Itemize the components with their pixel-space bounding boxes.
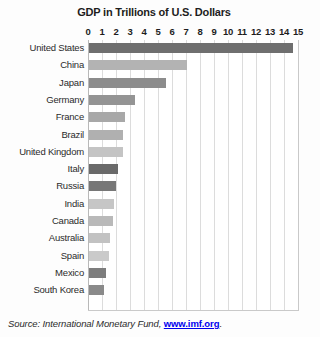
- bar-china[interactable]: [89, 60, 187, 70]
- bar-row: [88, 130, 298, 140]
- x-tick-label-13: 13: [265, 26, 275, 37]
- bar-united-kingdom[interactable]: [89, 147, 123, 157]
- bar-india[interactable]: [89, 199, 114, 209]
- bar-brazil[interactable]: [89, 130, 123, 140]
- x-tick-label-15: 15: [293, 26, 303, 37]
- bar-row: [88, 233, 298, 243]
- category-label-italy: Italy: [0, 163, 84, 174]
- x-tick-label-4: 4: [142, 26, 147, 37]
- x-tick-label-9: 9: [212, 26, 217, 37]
- x-tick-label-7: 7: [184, 26, 189, 37]
- bar-row: [88, 60, 298, 70]
- bar-russia[interactable]: [89, 181, 116, 191]
- bar-mexico[interactable]: [89, 268, 106, 278]
- source-note: Source: International Monetary Fund, www…: [8, 318, 222, 329]
- category-label-japan: Japan: [0, 77, 84, 88]
- category-label-canada: Canada: [0, 215, 84, 226]
- y-axis-category-labels: United StatesChinaJapanGermanyFranceBraz…: [0, 40, 84, 310]
- bar-row: [88, 251, 298, 261]
- source-period: .: [219, 318, 222, 329]
- bar-spain[interactable]: [89, 251, 109, 261]
- bar-united-states[interactable]: [89, 43, 293, 53]
- bar-japan[interactable]: [89, 78, 166, 88]
- category-label-australia: Australia: [0, 232, 84, 243]
- bar-row: [88, 285, 298, 295]
- x-tick-label-14: 14: [279, 26, 289, 37]
- bar-france[interactable]: [89, 112, 125, 122]
- category-label-france: France: [0, 111, 84, 122]
- x-tick-label-2: 2: [114, 26, 119, 37]
- x-tick-label-11: 11: [237, 26, 246, 37]
- source-prefix: Source: International Monetary Fund,: [8, 318, 164, 329]
- bar-australia[interactable]: [89, 233, 110, 243]
- x-tick-label-1: 1: [100, 26, 105, 37]
- bar-row: [88, 95, 298, 105]
- bar-row: [88, 181, 298, 191]
- category-label-brazil: Brazil: [0, 129, 84, 140]
- bar-row: [88, 112, 298, 122]
- x-tick-label-8: 8: [198, 26, 203, 37]
- source-url-link[interactable]: www.imf.org: [164, 318, 220, 329]
- bar-row: [88, 216, 298, 226]
- bar-germany[interactable]: [89, 95, 135, 105]
- gdp-bar-chart: GDP in Trillions of U.S. Dollars 0123456…: [0, 0, 320, 337]
- chart-title: GDP in Trillions of U.S. Dollars: [0, 6, 308, 18]
- x-tick-label-0: 0: [86, 26, 91, 37]
- category-label-russia: Russia: [0, 180, 84, 191]
- x-tick-label-5: 5: [156, 26, 161, 37]
- x-tick-label-10: 10: [223, 26, 233, 37]
- bar-row: [88, 268, 298, 278]
- x-tick-label-3: 3: [128, 26, 133, 37]
- bar-italy[interactable]: [89, 164, 118, 174]
- category-label-india: India: [0, 198, 84, 209]
- bar-canada[interactable]: [89, 216, 113, 226]
- x-tick-label-12: 12: [251, 26, 261, 37]
- bar-south-korea[interactable]: [89, 285, 104, 295]
- bar-row: [88, 199, 298, 209]
- category-label-mexico: Mexico: [0, 267, 84, 278]
- category-label-germany: Germany: [0, 94, 84, 105]
- x-axis-tick-labels: 0123456789101112131415: [88, 26, 298, 40]
- category-label-united-kingdom: United Kingdom: [0, 146, 84, 157]
- plot-area: [88, 40, 299, 311]
- bar-row: [88, 43, 298, 53]
- bar-row: [88, 147, 298, 157]
- category-label-united-states: United States: [0, 42, 84, 53]
- category-label-south-korea: South Korea: [0, 284, 84, 295]
- category-label-spain: Spain: [0, 250, 84, 261]
- bar-row: [88, 78, 298, 88]
- x-tick-label-6: 6: [170, 26, 175, 37]
- category-label-china: China: [0, 59, 84, 70]
- bar-row: [88, 164, 298, 174]
